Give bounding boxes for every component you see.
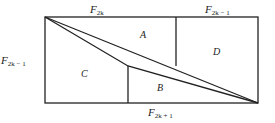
- region-b-label: B: [157, 82, 163, 93]
- label-top-left: F2k: [89, 3, 104, 17]
- label-left: F2k − 1: [0, 54, 26, 68]
- label-bottom: F2k + 1: [147, 106, 173, 120]
- upper-diagonal: [45, 17, 258, 103]
- label-top-right: F2k − 1: [204, 3, 230, 17]
- fibonacci-dissection-diagram: F2k F2k − 1 F2k − 1 F2k + 1 A B C D: [0, 0, 275, 123]
- region-d-label: D: [212, 46, 221, 57]
- region-a-label: A: [139, 29, 147, 40]
- region-c-label: C: [81, 68, 88, 79]
